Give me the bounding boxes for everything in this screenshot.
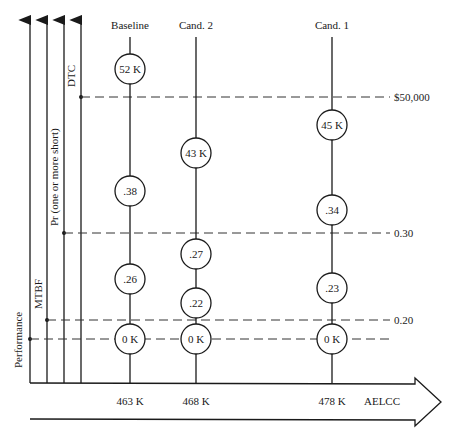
threshold-lines: $50,000 0.30 0.20: [28, 91, 430, 341]
cand-2-aelcc: 468 K: [182, 395, 209, 407]
trade-off-diagram: Performance MTBF Pr (one or more short) …: [0, 0, 454, 438]
column-baseline: Baseline 52 K .38 .26 0 K 463 K: [111, 19, 149, 407]
threshold-mtbf-label: 0.20: [394, 314, 414, 326]
cand-2-node-performance-value: 0 K: [188, 333, 204, 345]
aelcc-arrow: AELCC: [30, 378, 441, 426]
cand-1-node-mtbf-value: .23: [325, 282, 339, 294]
column-cand-1: Cand. 1 45 K .34 .23 0 K 478 K: [315, 19, 349, 407]
column-label-cand-1: Cand. 1: [315, 19, 349, 31]
baseline-aelcc: 463 K: [116, 395, 143, 407]
baseline-node-mtbf-value: .26: [123, 273, 137, 285]
cand-2-node-mtbf-value: .22: [189, 297, 203, 309]
axis-label-mtbf: MTBF: [32, 279, 44, 309]
axis-label-performance: Performance: [12, 312, 24, 368]
column-cand-2: Cand. 2 43 K .27 .22 0 K 468 K: [179, 19, 213, 407]
baseline-node-pr-value: .38: [123, 185, 137, 197]
aelcc-axis-label: AELCC: [364, 395, 400, 407]
cand-1-node-dtc-value: 45 K: [321, 119, 343, 131]
axis-label-dtc: DTC: [65, 65, 77, 87]
column-label-cand-2: Cand. 2: [179, 19, 213, 31]
cand-2-node-dtc-value: 43 K: [185, 147, 207, 159]
cand-1-node-performance-value: 0 K: [324, 333, 340, 345]
axis-label-pr: Pr (one or more short): [48, 128, 61, 226]
cand-1-aelcc: 478 K: [318, 395, 345, 407]
cand-2-node-pr-value: .27: [189, 248, 203, 260]
baseline-node-performance-value: 0 K: [122, 333, 138, 345]
column-label-baseline: Baseline: [111, 19, 149, 31]
baseline-node-dtc-value: 52 K: [119, 63, 141, 75]
threshold-pr-label: 0.30: [394, 227, 414, 239]
cand-1-node-pr-value: .34: [325, 204, 339, 216]
threshold-dtc-label: $50,000: [394, 91, 430, 103]
